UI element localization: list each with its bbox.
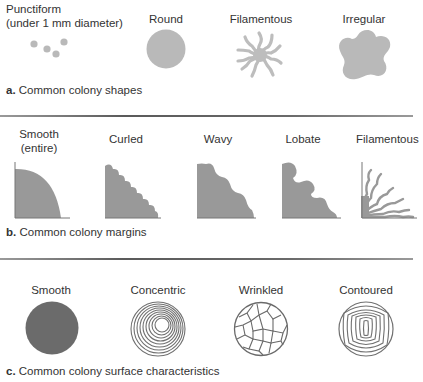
smooth-margin-sublabel: (entire) (16, 141, 62, 155)
punctiform-dots-icon (28, 36, 68, 58)
concentric-surface-icon (130, 301, 186, 357)
caption-a-text: Common colony shapes (19, 84, 142, 96)
irregular-label: Irregular (334, 12, 394, 26)
curled-label: Curled (106, 132, 146, 146)
punctiform-label: Punctiform (under 1 mm diameter) (6, 2, 123, 30)
section-divider-1 (0, 115, 413, 117)
wavy-margin-icon (196, 160, 256, 220)
contoured-surface-icon (338, 301, 394, 357)
curled-margin-icon (104, 160, 160, 220)
filamentous-colony-icon (232, 30, 288, 80)
wrinkled-label: Wrinkled (234, 283, 288, 297)
caption-c-letter: c. (6, 365, 16, 377)
punctiform-sublabel: (under 1 mm diameter) (6, 16, 123, 30)
wrinkled-surface-icon (233, 301, 289, 357)
concentric-label: Concentric (126, 283, 190, 297)
caption-c-text: Common colony surface characteristics (19, 365, 220, 377)
round-label: Round (146, 12, 186, 26)
punctiform-title: Punctiform (6, 2, 123, 16)
round-colony-icon (146, 29, 186, 69)
caption-b: b. Common colony margins (6, 226, 147, 238)
smooth-margin-label: Smooth (entire) (16, 127, 62, 155)
smooth-margin-icon (14, 160, 70, 220)
wavy-label: Wavy (198, 132, 238, 146)
contoured-label: Contoured (334, 283, 398, 297)
lobate-label: Lobate (280, 132, 326, 146)
filamentous-margin-label: Filamentous (356, 132, 423, 146)
caption-b-text: Common colony margins (19, 226, 146, 238)
smooth-surface-icon (25, 301, 79, 355)
filamentous-margin-icon (361, 160, 417, 220)
lobate-margin-icon (281, 160, 341, 220)
caption-b-letter: b. (6, 226, 16, 238)
irregular-colony-icon (336, 29, 394, 81)
filamentous-label: Filamentous (226, 12, 296, 26)
smooth-margin-title: Smooth (16, 127, 62, 141)
caption-a-letter: a. (6, 84, 16, 96)
caption-a: a. Common colony shapes (6, 84, 142, 96)
caption-c: c. Common colony surface characteristics (6, 365, 219, 377)
smooth-surface-label: Smooth (26, 283, 76, 297)
section-divider-2 (0, 258, 413, 260)
